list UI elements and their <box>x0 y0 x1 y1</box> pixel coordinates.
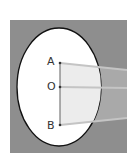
point-a <box>59 62 62 65</box>
point-b <box>59 124 62 127</box>
label-a: A <box>47 56 55 67</box>
label-o: O <box>47 81 56 92</box>
ray-o <box>60 87 127 88</box>
point-o <box>59 86 62 89</box>
label-b: B <box>47 120 55 131</box>
diagram-canvas <box>0 0 137 161</box>
